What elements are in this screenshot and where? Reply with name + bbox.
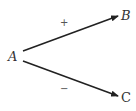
edge-a-b-sign: + [60, 18, 68, 28]
edge-a-to-c-arrow [23, 61, 118, 96]
edges-layer [0, 0, 136, 111]
node-b-label: B [121, 9, 131, 22]
edge-a-to-b-arrow [23, 16, 118, 51]
node-c-label: C [121, 91, 131, 104]
node-a-label: A [8, 50, 17, 63]
edge-a-c-sign: − [60, 84, 68, 94]
diagram-canvas: A B C + − [0, 0, 136, 111]
